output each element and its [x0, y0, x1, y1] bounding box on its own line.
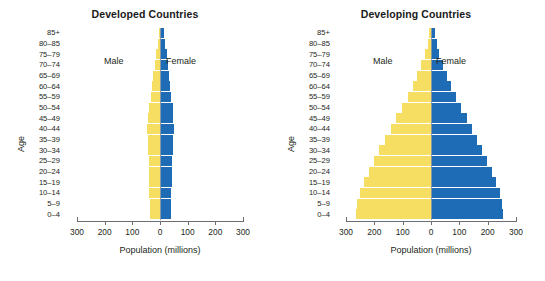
plot-area-developed [77, 28, 243, 220]
age-tick-label: 15–19 [292, 179, 330, 187]
bar-row [346, 49, 516, 59]
age-tick-label: 75–79 [292, 51, 330, 59]
x-axis-tick-label: 200 [367, 227, 381, 237]
age-tick-label: 50–54 [292, 104, 330, 112]
bar-male [391, 124, 431, 134]
chart-title-developing: Developing Countries [273, 8, 545, 20]
bar-male [148, 145, 160, 155]
bar-row [77, 135, 243, 145]
x-axis-tick-label: 200 [208, 227, 222, 237]
bar-female [161, 71, 169, 81]
bar-male [158, 39, 160, 49]
age-tick-label: 60–64 [22, 83, 60, 91]
bar-female [161, 39, 165, 49]
bar-row [346, 113, 516, 123]
age-tick-label: 85+ [292, 29, 330, 37]
age-tick-label: 15–19 [22, 179, 60, 187]
bar-group-developing [346, 28, 516, 220]
age-tick-label: 80–85 [22, 40, 60, 48]
x-axis-tick-label: 300 [236, 227, 250, 237]
age-tick-label: 35–39 [292, 136, 330, 144]
age-tick-label: 0–4 [22, 211, 60, 219]
x-axis-tick [488, 221, 489, 225]
age-tick-label: 55–59 [292, 93, 330, 101]
x-axis-tick-label: 100 [181, 227, 195, 237]
age-tick-label: 70–74 [292, 61, 330, 69]
age-tick-label: 75–79 [22, 51, 60, 59]
chart-panel-developed: Developed Countries Age 85+80–8575–7970–… [0, 0, 272, 262]
plot-area-developing [346, 28, 516, 220]
x-axis-tick [105, 221, 106, 225]
bar-row [346, 188, 516, 198]
x-axis-tick [374, 221, 375, 225]
age-tick-label: 20–24 [22, 168, 60, 176]
bar-male [428, 39, 431, 49]
age-tick-label: 80–85 [292, 40, 330, 48]
bar-female [161, 177, 172, 187]
bar-female [432, 113, 467, 123]
bar-male [364, 177, 431, 187]
bar-row [346, 145, 516, 155]
age-tick-label: 65–69 [292, 72, 330, 80]
x-axis-tick-label: 200 [481, 227, 495, 237]
bar-row [77, 92, 243, 102]
bar-male [153, 71, 160, 81]
bar-female [161, 113, 173, 123]
bar-female [432, 145, 482, 155]
bar-male [155, 60, 160, 70]
bar-female [161, 135, 173, 145]
bar-male [413, 81, 431, 91]
bar-row [346, 124, 516, 134]
age-tick-label: 70–74 [22, 61, 60, 69]
bar-group-developed [77, 28, 243, 220]
bar-female [161, 199, 171, 209]
bar-row [346, 39, 516, 49]
x-axis-title-developing: Population (millions) [390, 245, 471, 255]
bar-row [346, 156, 516, 166]
bar-male [429, 28, 431, 38]
age-tick-label: 85+ [22, 29, 60, 37]
series-label-female-developing: Female [436, 56, 466, 66]
x-axis-tick-label: 0 [429, 227, 434, 237]
age-tick-labels-developing: 85+80–8575–7970–7465–6960–6455–5950–5445… [292, 28, 330, 220]
age-tick-label: 25–29 [22, 157, 60, 165]
bar-row [77, 113, 243, 123]
bar-female [432, 209, 503, 219]
bar-row [346, 103, 516, 113]
x-axis-tick [188, 221, 189, 225]
bar-row [346, 60, 516, 70]
bar-female [161, 209, 171, 219]
chart-panel-developing: Developing Countries Age 85+80–8575–7970… [273, 0, 545, 262]
bar-row [346, 167, 516, 177]
age-tick-label: 30–34 [292, 147, 330, 155]
age-tick-label: 10–14 [22, 189, 60, 197]
bar-row [346, 92, 516, 102]
bar-female [432, 28, 435, 38]
bar-female [161, 103, 173, 113]
bar-male [374, 156, 431, 166]
age-tick-label: 20–24 [292, 168, 330, 176]
bar-female [161, 145, 173, 155]
population-pyramid-figure: Developed Countries Age 85+80–8575–7970–… [0, 0, 545, 281]
bar-male [408, 92, 431, 102]
bar-male [360, 188, 431, 198]
bar-row [77, 124, 243, 134]
bar-female [432, 39, 437, 49]
bar-female [161, 156, 172, 166]
bar-row [346, 135, 516, 145]
bar-row [346, 81, 516, 91]
bar-female [432, 103, 461, 113]
age-tick-label: 30–34 [22, 147, 60, 155]
series-label-female-developed: Female [166, 56, 196, 66]
bar-male [149, 188, 160, 198]
bar-female [161, 28, 164, 38]
age-tick-label: 5–9 [22, 200, 60, 208]
age-tick-label: 35–39 [22, 136, 60, 144]
age-tick-label: 60–64 [292, 83, 330, 91]
x-axis-tick [215, 221, 216, 225]
bar-male [425, 49, 431, 59]
x-axis-tick-label: 200 [98, 227, 112, 237]
bar-male [150, 199, 160, 209]
bar-row [77, 39, 243, 49]
bar-female [432, 81, 451, 91]
